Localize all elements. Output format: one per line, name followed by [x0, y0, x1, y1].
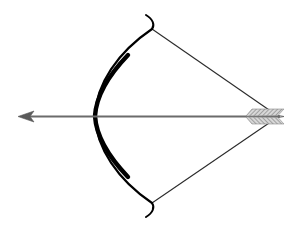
illustration-svg: [0, 0, 294, 232]
bow-and-arrow-illustration: Bow and arrow illustration: [0, 0, 294, 232]
